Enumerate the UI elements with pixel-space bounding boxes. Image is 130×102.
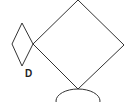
diagram-canvas: D [0, 0, 130, 102]
large-diamond [33, 0, 124, 89]
label-d: D [25, 68, 32, 79]
ellipse-shape [56, 89, 100, 102]
small-diamond [12, 23, 33, 66]
